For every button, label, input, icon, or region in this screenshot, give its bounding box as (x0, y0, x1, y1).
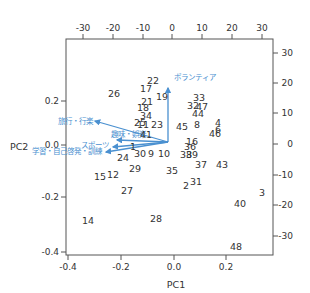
top-tick-label: -10 (136, 23, 151, 33)
observation-label: 48 (230, 241, 242, 252)
observation-label: 37 (195, 159, 207, 170)
observation-label: 34 (140, 110, 152, 121)
observation-label: 35 (166, 165, 178, 176)
top-tick-label: 10 (196, 23, 208, 33)
right-tick-label: -30 (278, 231, 293, 241)
right-tick-label: 0 (287, 139, 293, 149)
observation-label: 30 (134, 148, 146, 159)
x-axis-title: PC1 (167, 279, 185, 290)
loading-label: 学習・自己啓発・訓練 (32, 146, 103, 156)
observation-label: 39 (186, 149, 198, 160)
x-tick-label: -0.4 (59, 262, 77, 272)
observation-label: 10 (158, 148, 170, 159)
observation-label: 15 (94, 171, 106, 182)
y-tick-label: -0.4 (41, 247, 59, 257)
y-tick-label: -0.2 (41, 192, 59, 202)
observation-label: 24 (117, 152, 129, 163)
observation-label: 41 (140, 129, 152, 140)
observation-label: 9 (148, 148, 154, 159)
top-tick-label: 30 (256, 23, 268, 33)
right-tick-label: 20 (282, 78, 294, 88)
observation-label: 46 (209, 128, 221, 139)
top-tick-label: -30 (76, 23, 91, 33)
observation-label: 14 (82, 215, 94, 226)
observation-label: 27 (121, 185, 133, 196)
loading-label: ボランティア (174, 73, 216, 82)
observation-label: 43 (216, 159, 228, 170)
observation-label: 45 (176, 121, 188, 132)
observation-label: 12 (107, 169, 119, 180)
top-tick-label: 20 (226, 23, 238, 33)
right-tick-label: 10 (282, 108, 294, 118)
observation-label: 29 (129, 163, 141, 174)
observation-label: 31 (190, 176, 202, 187)
top-tick-label: -20 (106, 23, 121, 33)
observation-label: 3 (259, 187, 265, 198)
y-axis-title: PC2 (10, 141, 28, 152)
observation-label: 19 (156, 91, 168, 102)
observation-label: 23 (151, 119, 163, 130)
pca-biplot: -0.4-0.20.00.20.20.0-0.2-0.4-30-20-10010… (0, 0, 310, 293)
observation-label: 8 (194, 119, 200, 130)
right-tick-label: -20 (278, 200, 293, 210)
x-tick-label: -0.2 (112, 262, 130, 272)
observation-label: 2 (183, 180, 189, 191)
top-tick-label: 0 (169, 23, 175, 33)
observation-label: 22 (147, 75, 159, 86)
observation-label: 47 (196, 101, 208, 112)
observation-label: 28 (150, 213, 162, 224)
y-tick-label: 0.2 (45, 96, 59, 106)
observation-label: 40 (234, 198, 246, 209)
observation-label: 21 (141, 96, 153, 107)
right-tick-label: 30 (282, 48, 294, 58)
observation-label: 26 (108, 88, 120, 99)
x-tick-label: 0.2 (219, 262, 233, 272)
right-tick-label: -10 (278, 170, 293, 180)
x-tick-label: 0.0 (167, 262, 182, 272)
loading-label: 旅行・行楽 (58, 116, 94, 126)
observation-labels: 1234689101112141516171819212223242526272… (82, 75, 265, 252)
